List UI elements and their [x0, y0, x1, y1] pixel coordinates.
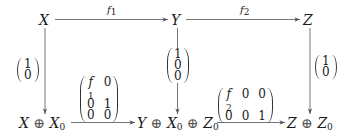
left-paren [167, 48, 173, 83]
entry: f2 [225, 89, 233, 111]
node-z: Z [303, 13, 313, 27]
matrix-bottom-right: f2 0 0 0 0 1 [218, 88, 273, 123]
entry: 0 [322, 67, 330, 78]
left-paren [80, 76, 86, 122]
left-paren [17, 58, 23, 82]
right-paren [183, 48, 189, 83]
vector-left: 1 0 [17, 58, 39, 82]
node-x-plus-x0: X ⊕ X0 [19, 116, 65, 130]
vector-middle: 1 0 0 [167, 48, 189, 83]
node-y: Y [171, 13, 180, 27]
node-z-label: Z [303, 12, 313, 28]
right-paren [33, 58, 39, 82]
vector-right: 1 0 [315, 55, 337, 79]
matrix-bottom-right-entries: f2 0 0 0 0 1 [224, 88, 267, 123]
entry-base: f [87, 77, 95, 88]
entry-base: f [225, 89, 233, 100]
oplus-symbol: ⊕ [301, 115, 313, 131]
label-f2-sub: 2 [244, 7, 250, 17]
entry: 0 [174, 71, 182, 82]
label-f1: f1 [107, 5, 116, 15]
left-paren [218, 88, 224, 123]
term: X [19, 115, 29, 131]
node-x: X [39, 13, 49, 27]
node-y-plus-x0-plus-z0: Y ⊕ X0 ⊕ Z0 [137, 116, 219, 130]
term: Z [317, 115, 327, 131]
vector-middle-entries: 1 0 0 [173, 48, 183, 83]
oplus-symbol: ⊕ [151, 115, 163, 131]
subscript: 0 [60, 122, 66, 132]
entry: f1 [87, 77, 95, 99]
entry: 0 [104, 110, 112, 121]
right-paren [267, 88, 273, 123]
matrix-bottom-left: f1 0 0 1 0 0 [80, 76, 118, 122]
entry: 0 [87, 110, 95, 121]
label-f1-sub: 1 [111, 7, 117, 17]
vector-right-entries: 1 0 [321, 55, 331, 79]
term: Z [203, 115, 213, 131]
left-paren [315, 55, 321, 79]
entry: 0 [225, 111, 233, 122]
node-z-plus-z0: Z ⊕ Z0 [287, 116, 333, 130]
node-x-label: X [39, 12, 49, 28]
matrix-bottom-left-entries: f1 0 0 1 0 0 [86, 76, 112, 122]
subscript: 0 [213, 122, 219, 132]
term: X [167, 115, 177, 131]
entry: 0 [242, 111, 250, 122]
subscript: 0 [177, 122, 183, 132]
oplus-symbol: ⊕ [187, 115, 199, 131]
node-y-label: Y [171, 12, 180, 28]
oplus-symbol: ⊕ [33, 115, 45, 131]
entry: 0 [242, 89, 250, 111]
right-paren [112, 76, 118, 122]
term: Y [137, 115, 146, 131]
entry: 0 [24, 70, 32, 81]
vector-left-entries: 1 0 [23, 58, 33, 82]
term: Z [287, 115, 297, 131]
right-paren [331, 55, 337, 79]
entry: 1 [258, 111, 266, 122]
entry: 0 [104, 77, 112, 99]
label-f2: f2 [240, 5, 249, 15]
subscript: 0 [327, 122, 333, 132]
entry: 0 [258, 89, 266, 111]
term: X [50, 115, 60, 131]
